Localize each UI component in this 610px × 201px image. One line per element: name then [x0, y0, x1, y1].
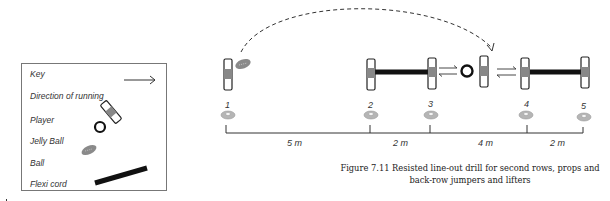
figure-caption: Figure 7.11 Resisted line-out drill for … [330, 162, 610, 186]
player-5 [581, 57, 589, 88]
distance-label-3-4: 4 m [478, 138, 493, 148]
marker-number-2: 2 [368, 100, 373, 110]
pass-trajectory [241, 9, 492, 52]
marker-number-1: 1 [225, 100, 230, 110]
caption-line-2: back-row jumpers and lifters [330, 174, 610, 186]
player-1 [224, 59, 232, 90]
player-2 [367, 59, 375, 90]
distance-label-1-2: 5 m [287, 138, 302, 148]
rugby-ball [234, 57, 252, 71]
distance-label-4-5: 2 m [550, 138, 565, 148]
player-4 [521, 58, 529, 89]
cones [221, 111, 591, 121]
marker-number-3: 3 [428, 99, 433, 109]
distance-line [226, 125, 583, 133]
player-jumper [480, 56, 488, 87]
exchange-arrows-3 [439, 66, 457, 77]
marker-number-4: 4 [524, 99, 529, 109]
exchange-arrows-4 [497, 67, 516, 78]
player-3 [428, 58, 436, 89]
jelly-ball [462, 66, 473, 77]
distance-label-2-3: 2 m [393, 138, 408, 148]
marker-number-5: 5 [581, 101, 586, 111]
caption-line-1: Figure 7.11 Resisted line-out drill for … [330, 162, 610, 174]
